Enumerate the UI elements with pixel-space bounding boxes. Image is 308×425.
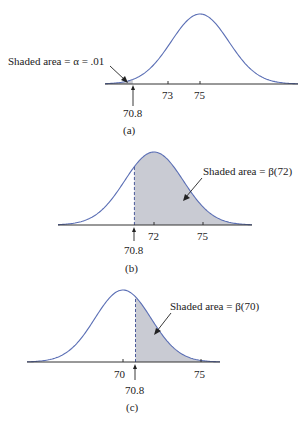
critical-value-label-b: 70.8 [124,244,144,256]
critical-arrow-a [131,85,135,106]
panel-c: 70 75 70.8 (c) Shaded area = β(70) [27,290,259,414]
normal-curve-a [105,14,298,84]
tick-label-75: 75 [194,368,206,380]
annotation-arrow-c [154,313,171,335]
critical-arrow-b [132,227,136,241]
critical-value-label-c: 70.8 [125,384,145,396]
annotation-a: Shaded area = α = .01 [8,55,104,67]
figure: 73 75 70.8 (a) Shaded area = α = .01 72 … [0,0,308,425]
annotation-arrow-a [110,66,128,83]
panel-b: 72 75 70.8 (b) Shaded area = β(72) [58,152,292,275]
critical-value-label-a: 70.8 [123,107,143,119]
tick-label-70: 70 [114,368,126,380]
tick-label-75: 75 [194,89,206,101]
caption-b: (b) [125,262,138,275]
critical-arrow-c [133,364,137,380]
caption-a: (a) [123,124,136,137]
tick-label-72: 72 [148,230,159,242]
annotation-b: Shaded area = β(72) [203,165,292,178]
caption-c: (c) [126,401,139,414]
tick-label-75: 75 [197,230,209,242]
tick-label-73: 73 [162,89,174,101]
panel-a: 73 75 70.8 (a) Shaded area = α = .01 [8,14,298,137]
annotation-c: Shaded area = β(70) [170,300,259,313]
